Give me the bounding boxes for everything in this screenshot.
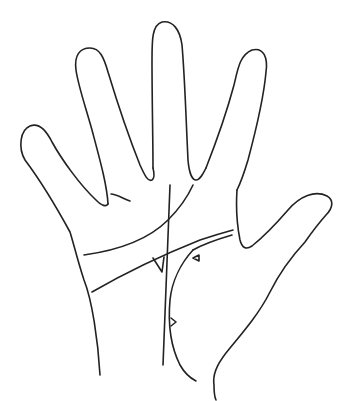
fate-line: [163, 185, 170, 365]
triangle-marker-left: [153, 257, 164, 272]
palm-diagram: Palm lines diagram: [0, 0, 347, 401]
head-line-branch: [193, 235, 232, 250]
hand-drawing: [0, 0, 347, 401]
ring-finger-outline: [76, 48, 154, 204]
head-line: [92, 230, 233, 292]
finger-base-crease: [111, 194, 130, 201]
palm-markers: [153, 255, 199, 326]
palm-lines: [84, 185, 233, 381]
little-finger-outline: [21, 125, 108, 375]
triangle-marker-lower: [171, 318, 176, 326]
middle-finger-outline: [152, 22, 206, 180]
triangle-marker-upper-right: [193, 255, 199, 261]
life-line: [169, 250, 196, 381]
index-finger-outline: [206, 50, 266, 190]
heart-line: [84, 185, 193, 255]
thumb-outline: [214, 190, 332, 400]
